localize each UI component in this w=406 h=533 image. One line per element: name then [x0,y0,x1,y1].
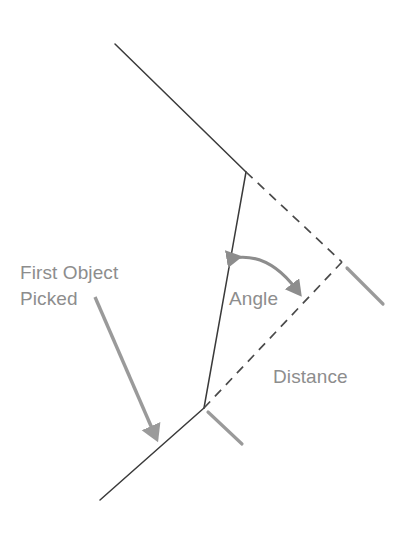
measurement-diagram: First Object Picked Angle Distance [0,0,406,533]
bottom-tick-mark [208,412,242,444]
diagram-canvas: First Object Picked Angle Distance [0,0,406,533]
dashed-upper-leg [246,172,342,262]
first-object-label-line2: Picked [20,288,78,309]
first-object-label-line1: First Object [20,262,119,283]
lower-solid-line [100,408,204,500]
first-object-callout-arrow [95,297,154,433]
upper-solid-line [115,44,246,172]
angle-label: Angle [229,288,278,309]
distance-label: Distance [273,366,348,387]
angle-double-arrow-arc [233,257,296,289]
right-tick-mark [347,268,383,304]
